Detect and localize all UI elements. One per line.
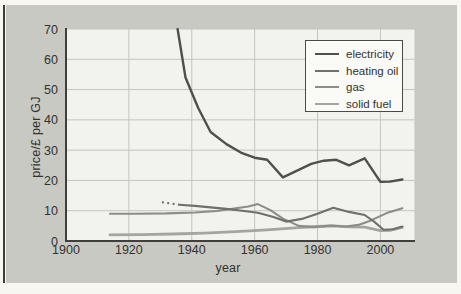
legend-label: gas [346,81,365,93]
legend-item-gas: gas [306,79,402,96]
y-tick-label: 30 [44,144,58,158]
legend-line-swatch [315,103,339,105]
legend-item-solid-fuel: solid fuel [306,96,402,113]
legend-item-heating-oil: heating oil [306,63,402,80]
y-tick-label: 40 [44,113,58,127]
legend-line-swatch [315,53,339,55]
legend-item-electricity: electricity [306,46,402,63]
y-tick-label: 10 [44,204,58,218]
y-tick-label: 60 [44,53,58,67]
y-axis-label: price/£ per GJ [29,96,43,177]
x-axis-label: year [180,261,276,275]
y-tick-label: 70 [44,23,58,37]
figure-page: { "figure": { "xlabel": "year", "ylabel"… [0,0,461,294]
x-tick-label: 1900 [52,243,80,257]
legend-label: solid fuel [346,98,391,110]
legend-box: electricityheating oilgassolid fuel [305,40,403,112]
x-tick-label: 2000 [367,243,395,257]
x-tick-label: 1920 [115,243,143,257]
x-tick-label: 1940 [178,243,206,257]
y-tick-label: 20 [44,174,58,188]
x-tick-label: 1960 [241,243,269,257]
legend-line-swatch [315,70,339,72]
y-tick-label: 50 [44,83,58,97]
legend-label: heating oil [346,65,398,77]
legend-line-swatch [315,86,339,88]
legend-label: electricity [346,48,394,60]
x-tick-label: 1980 [304,243,332,257]
